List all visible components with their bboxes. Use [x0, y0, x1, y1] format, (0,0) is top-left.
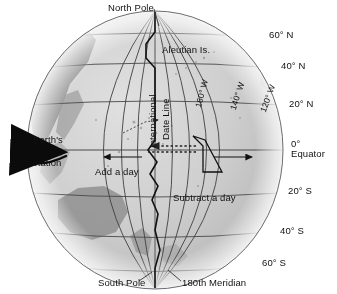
label-latitude-20n: 20° N [289, 99, 313, 110]
label-latitude-20s: 20° S [288, 186, 312, 197]
earth-date-line-diagram: North Pole Aleutian Is. International Da… [0, 0, 337, 294]
label-international-date-line-1: International [148, 94, 159, 148]
label-aleutian-islands: Aleutian Is. [162, 45, 210, 56]
label-latitude-40s: 40° S [280, 226, 304, 237]
label-add-a-day: Add a day [95, 167, 139, 178]
label-international-date-line-2: Date Line [161, 98, 172, 140]
label-rotation: rotation [29, 158, 62, 169]
label-subtract-a-day: Subtract a day [173, 193, 236, 204]
label-earths: Earth's [33, 135, 63, 146]
label-latitude-60s: 60° S [262, 258, 286, 269]
label-north-pole: North Pole [108, 3, 154, 14]
globe-surface [27, 11, 283, 289]
label-south-pole: South Pole [98, 278, 145, 289]
label-equator-name: Equator [291, 149, 325, 160]
label-180th-meridian: 180th Meridian [182, 278, 246, 289]
label-latitude-60n: 60° N [269, 30, 293, 41]
label-latitude-40n: 40° N [281, 61, 305, 72]
